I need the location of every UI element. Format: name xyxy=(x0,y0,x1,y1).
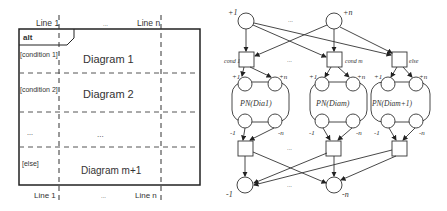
transition-out-1 xyxy=(238,141,253,156)
operand-1: Diagram 1 xyxy=(83,53,134,65)
svg-text:-n: -n xyxy=(419,129,425,137)
svg-text:else: else xyxy=(409,58,419,64)
svg-text:+n: +n xyxy=(279,73,288,81)
svg-text:...: ... xyxy=(287,182,292,188)
lifeline-1-top-label: Line 1 xyxy=(36,18,59,28)
transition-out-else xyxy=(392,141,407,156)
svg-text:cond 1: cond 1 xyxy=(224,58,240,64)
svg-text:...: ... xyxy=(287,57,292,63)
svg-text:...: ... xyxy=(288,17,293,23)
operand-else: Diagram m+1 xyxy=(81,165,142,176)
diagram-canvas: alt Line 1 ... Line n [condition 1] [con… xyxy=(0,0,447,211)
guard-1: [condition 1] xyxy=(20,51,58,59)
svg-text:+n: +n xyxy=(357,73,366,81)
place-bottom-n xyxy=(326,177,342,193)
place-top-n xyxy=(326,13,342,29)
lifeline-n-bottom-label: Line n xyxy=(135,191,157,200)
lifeline-1-bottom-label: Line 1 xyxy=(34,191,56,200)
svg-text:-n: -n xyxy=(356,129,362,137)
svg-text:-1: -1 xyxy=(309,129,315,137)
subnet-1-label: PN(Dia1) xyxy=(239,99,272,108)
svg-text:cond m: cond m xyxy=(345,58,363,64)
svg-text:-n: -n xyxy=(278,129,284,137)
svg-text:-1: -1 xyxy=(230,129,236,137)
svg-text:+1: +1 xyxy=(228,8,237,17)
svg-text:...: ... xyxy=(287,145,292,151)
lifeline-n-top-label: Line n xyxy=(137,18,160,28)
guard-ellipsis: ... xyxy=(27,129,33,136)
svg-text:-1: -1 xyxy=(374,129,380,137)
operand-2: Diagram 2 xyxy=(83,88,134,100)
operator-label: alt xyxy=(23,33,33,42)
svg-text:...: ... xyxy=(101,193,106,199)
operand-ellipsis: ... xyxy=(97,130,104,139)
subnet-m-label: PN(Diam) xyxy=(315,99,350,108)
subnet-m1-label: PN(Diam+1) xyxy=(371,99,413,108)
svg-text:+n: +n xyxy=(343,8,352,17)
svg-text:-1: -1 xyxy=(226,190,233,199)
transition-cond-1 xyxy=(239,52,254,67)
svg-text:+1: +1 xyxy=(309,73,317,81)
transition-else xyxy=(392,52,407,67)
svg-text:+1: +1 xyxy=(232,73,240,81)
transition-cond-m xyxy=(327,52,342,67)
alt-fragment: alt Line 1 ... Line n [condition 1] [con… xyxy=(19,15,200,200)
guard-else: [else] xyxy=(22,160,39,168)
svg-text:+1: +1 xyxy=(374,73,382,81)
guard-2: [condition 2] xyxy=(20,86,58,94)
svg-text:...: ... xyxy=(103,21,108,27)
svg-text:-n: -n xyxy=(342,190,349,199)
place-top-1 xyxy=(238,13,254,29)
transition-out-m xyxy=(326,141,341,156)
svg-text:+n: +n xyxy=(419,73,428,81)
petri-net-labels: +1 +n ... cond 1 cond m else ... +1 +n +… xyxy=(224,8,428,199)
place-bottom-1 xyxy=(237,177,253,193)
